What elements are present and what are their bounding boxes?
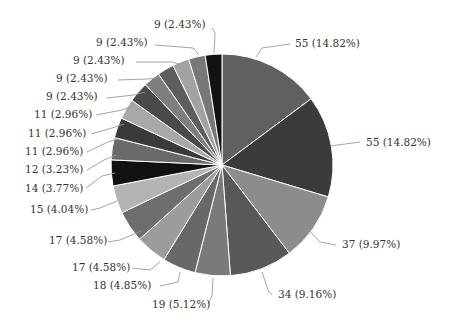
slice-label: 37 (9.97%) bbox=[342, 238, 400, 250]
slice-label: 11 (2.96%) bbox=[25, 145, 83, 157]
slice-label: 9 (2.43%) bbox=[73, 54, 125, 66]
slice-label: 15 (4.04%) bbox=[30, 203, 88, 215]
slice-label: 9 (2.43%) bbox=[96, 36, 148, 48]
slice-label: 12 (3.23%) bbox=[25, 163, 83, 175]
slice-label: 17 (4.58%) bbox=[49, 234, 107, 246]
slice-label: 17 (4.58%) bbox=[72, 261, 130, 273]
slice-label: 55 (14.82%) bbox=[366, 136, 431, 148]
slice-label: 9 (2.43%) bbox=[46, 90, 98, 102]
pie-slices bbox=[111, 54, 333, 276]
slice-label: 34 (9.16%) bbox=[278, 288, 336, 300]
slice-label: 9 (2.43%) bbox=[154, 18, 206, 30]
slice-label: 11 (2.96%) bbox=[28, 127, 86, 139]
slice-label: 19 (5.12%) bbox=[152, 298, 210, 310]
slice-label: 55 (14.82%) bbox=[295, 37, 360, 49]
slice-label: 9 (2.43%) bbox=[56, 72, 108, 84]
slice-label: 18 (4.85%) bbox=[93, 279, 151, 291]
slice-label: 11 (2.96%) bbox=[34, 108, 92, 120]
pie-chart: 55 (14.82%)55 (14.82%)37 (9.97%)34 (9.16… bbox=[0, 0, 457, 331]
slice-label: 14 (3.77%) bbox=[25, 182, 83, 194]
